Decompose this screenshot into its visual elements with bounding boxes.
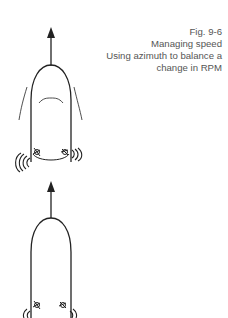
- vessel-top: [16, 27, 82, 172]
- hull-stern: [33, 154, 69, 160]
- hull-outline: [31, 65, 71, 162]
- wake-bow: [39, 98, 63, 103]
- heading-arrow-head-icon: [47, 27, 55, 38]
- wake-left: [19, 87, 27, 120]
- prop-wash-left-icon: [16, 153, 30, 172]
- vessel-diagrams: [0, 0, 228, 318]
- azimuth-thruster-right-icon: [61, 149, 68, 155]
- azimuth-thruster-left-icon: [33, 301, 40, 309]
- azimuth-thruster-right-icon: [59, 302, 66, 308]
- vessel-bottom: [23, 181, 76, 318]
- prop-wash-right-icon: [72, 148, 82, 161]
- prop-wash-left-icon: [23, 309, 30, 318]
- wake-right: [74, 87, 82, 120]
- heading-arrow-head-icon: [47, 181, 55, 192]
